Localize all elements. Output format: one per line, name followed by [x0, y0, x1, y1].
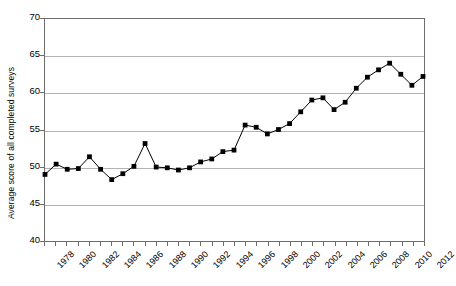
x-axis-tick-mark	[279, 242, 280, 246]
x-axis-tick-mark	[245, 242, 246, 246]
data-point-marker	[265, 132, 270, 137]
data-point-marker	[65, 167, 70, 172]
x-axis-tick-mark	[234, 242, 235, 246]
x-axis-tick-label: 2006	[368, 249, 389, 270]
data-point-marker	[287, 121, 292, 126]
data-point-marker	[365, 75, 370, 80]
y-axis-tick-label: 40	[20, 235, 40, 245]
data-point-marker	[220, 149, 225, 154]
y-axis-tick-label: 50	[20, 161, 40, 171]
x-axis-tick-label: 1982	[100, 249, 121, 270]
x-axis-tick-mark	[379, 242, 380, 246]
x-axis-tick-label: 1978	[55, 249, 76, 270]
x-axis-tick-mark	[223, 242, 224, 246]
x-axis-tick-mark	[66, 242, 67, 246]
data-point-marker	[321, 95, 326, 100]
x-axis-tick-mark	[413, 242, 414, 246]
x-axis-tick-mark	[424, 242, 425, 246]
x-axis-tick-mark	[368, 242, 369, 246]
data-point-marker	[409, 83, 414, 88]
x-axis-tick-label: 2008	[390, 249, 411, 270]
data-point-marker	[76, 166, 81, 171]
x-axis-tick-mark	[44, 242, 45, 246]
x-axis-tick-label: 1992	[211, 249, 232, 270]
x-axis-tick-label: 2012	[435, 249, 456, 270]
data-point-marker	[120, 171, 125, 176]
x-axis-tick-mark	[133, 242, 134, 246]
data-point-marker	[376, 67, 381, 72]
x-axis-tick-label: 1996	[256, 249, 277, 270]
x-axis-tick-mark	[290, 242, 291, 246]
data-point-marker	[176, 168, 181, 173]
x-axis-tick-mark	[178, 242, 179, 246]
data-point-marker	[87, 154, 92, 159]
data-point-marker	[209, 157, 214, 162]
x-axis-tick-label: 1994	[234, 249, 255, 270]
data-point-marker	[343, 100, 348, 105]
data-point-marker	[132, 164, 137, 169]
x-axis-tick-label: 2010	[413, 249, 434, 270]
series-line	[45, 63, 423, 179]
data-point-marker	[387, 61, 392, 66]
data-point-marker	[254, 125, 259, 130]
y-axis-title: Average score of all completed surveys	[0, 0, 22, 286]
x-axis-tick-mark	[167, 242, 168, 246]
x-axis-tick-mark	[312, 242, 313, 246]
data-point-marker	[198, 160, 203, 165]
x-axis-tick-mark	[256, 242, 257, 246]
x-axis-tick-mark	[346, 242, 347, 246]
y-axis-tick-label: 45	[20, 198, 40, 208]
data-point-marker	[98, 167, 103, 172]
data-point-marker	[54, 162, 59, 167]
x-axis-tick-label: 1984	[122, 249, 143, 270]
x-axis-tick-mark	[402, 242, 403, 246]
series-markers	[43, 61, 426, 182]
x-axis-tick-mark	[335, 242, 336, 246]
x-axis-tick-mark	[78, 242, 79, 246]
x-axis-tick-mark	[145, 242, 146, 246]
x-axis-tick-mark	[200, 242, 201, 246]
y-axis-tick-label: 65	[20, 49, 40, 59]
x-axis-tick-label: 1986	[144, 249, 165, 270]
y-axis-tick-label: 70	[20, 12, 40, 22]
x-axis-tick-label: 1988	[167, 249, 188, 270]
x-axis-tick-mark	[301, 242, 302, 246]
y-axis-tick-label: 55	[20, 124, 40, 134]
x-axis-tick-mark	[55, 242, 56, 246]
x-axis-tick-label: 1980	[77, 249, 98, 270]
data-point-marker	[187, 165, 192, 170]
data-point-marker	[354, 86, 359, 91]
y-axis-tick-label: 60	[20, 86, 40, 96]
x-axis-tick-mark	[390, 242, 391, 246]
data-point-marker	[276, 127, 281, 132]
x-axis-tick-mark	[189, 242, 190, 246]
x-axis-tick-mark	[357, 242, 358, 246]
x-axis-tick-label: 1990	[189, 249, 210, 270]
data-point-marker	[309, 98, 314, 103]
data-point-marker	[298, 109, 303, 114]
data-point-marker	[43, 172, 48, 177]
data-point-marker	[232, 148, 237, 153]
data-point-marker	[165, 165, 170, 170]
data-series-layer	[45, 19, 424, 241]
x-axis-tick-label: 2004	[345, 249, 366, 270]
x-axis-tick-mark	[111, 242, 112, 246]
x-axis-tick-mark	[156, 242, 157, 246]
data-point-marker	[109, 177, 114, 182]
data-point-marker	[243, 123, 248, 128]
x-axis-tick-mark	[268, 242, 269, 246]
x-axis-tick-mark	[122, 242, 123, 246]
x-axis-tick-mark	[89, 242, 90, 246]
data-point-marker	[154, 165, 159, 170]
data-point-marker	[421, 74, 426, 79]
x-axis-tick-label: 2000	[301, 249, 322, 270]
x-axis-tick-mark	[212, 242, 213, 246]
data-point-marker	[398, 72, 403, 77]
data-point-marker	[332, 107, 337, 112]
x-axis-tick-mark	[100, 242, 101, 246]
x-axis-tick-mark	[323, 242, 324, 246]
plot-area	[44, 18, 425, 242]
x-axis-tick-label: 2002	[323, 249, 344, 270]
data-point-marker	[143, 141, 148, 146]
